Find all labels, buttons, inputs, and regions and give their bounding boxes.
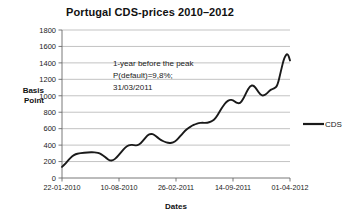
x-tick-label: 10-08-2010: [101, 183, 138, 192]
annotation-line-1: 1-year before the peak: [113, 59, 194, 68]
data-series-cds: [62, 54, 290, 167]
chart-container: Portugal CDS-prices 2010–2012 Basis Poin…: [0, 0, 357, 224]
chart-plot-area: 020040060080010001200140016001800 22-01-…: [0, 0, 357, 224]
x-tick-label: 01-04-2012: [272, 183, 309, 192]
y-axis-ticks: 020040060080010001200140016001800: [39, 26, 62, 183]
y-tick-label: 0: [52, 174, 56, 183]
y-tick-label: 400: [43, 141, 56, 150]
y-tick-label: 200: [43, 157, 56, 166]
legend-label-cds: CDS: [325, 120, 342, 129]
y-tick-label: 1400: [39, 59, 56, 68]
x-tick-label: 14-09-2011: [215, 183, 251, 192]
y-tick-label: 1000: [39, 92, 56, 101]
chart-legend: CDS: [303, 120, 342, 129]
x-axis-ticks: 22-01-201010-08-201026-02-201114-09-2011…: [44, 178, 309, 192]
x-axis-title: Dates: [165, 202, 187, 211]
x-tick-label: 26-02-2011: [158, 183, 194, 192]
annotation-line-2: P(default)=9,8%;: [113, 71, 173, 80]
annotation-line-3: 31/03/2011: [113, 83, 153, 92]
y-tick-label: 800: [43, 108, 56, 117]
x-tick-label: 22-01-2010: [44, 183, 81, 192]
y-tick-label: 1600: [39, 42, 56, 51]
y-tick-label: 1200: [39, 75, 56, 84]
y-tick-label: 1800: [39, 26, 56, 35]
y-tick-label: 600: [43, 124, 56, 133]
